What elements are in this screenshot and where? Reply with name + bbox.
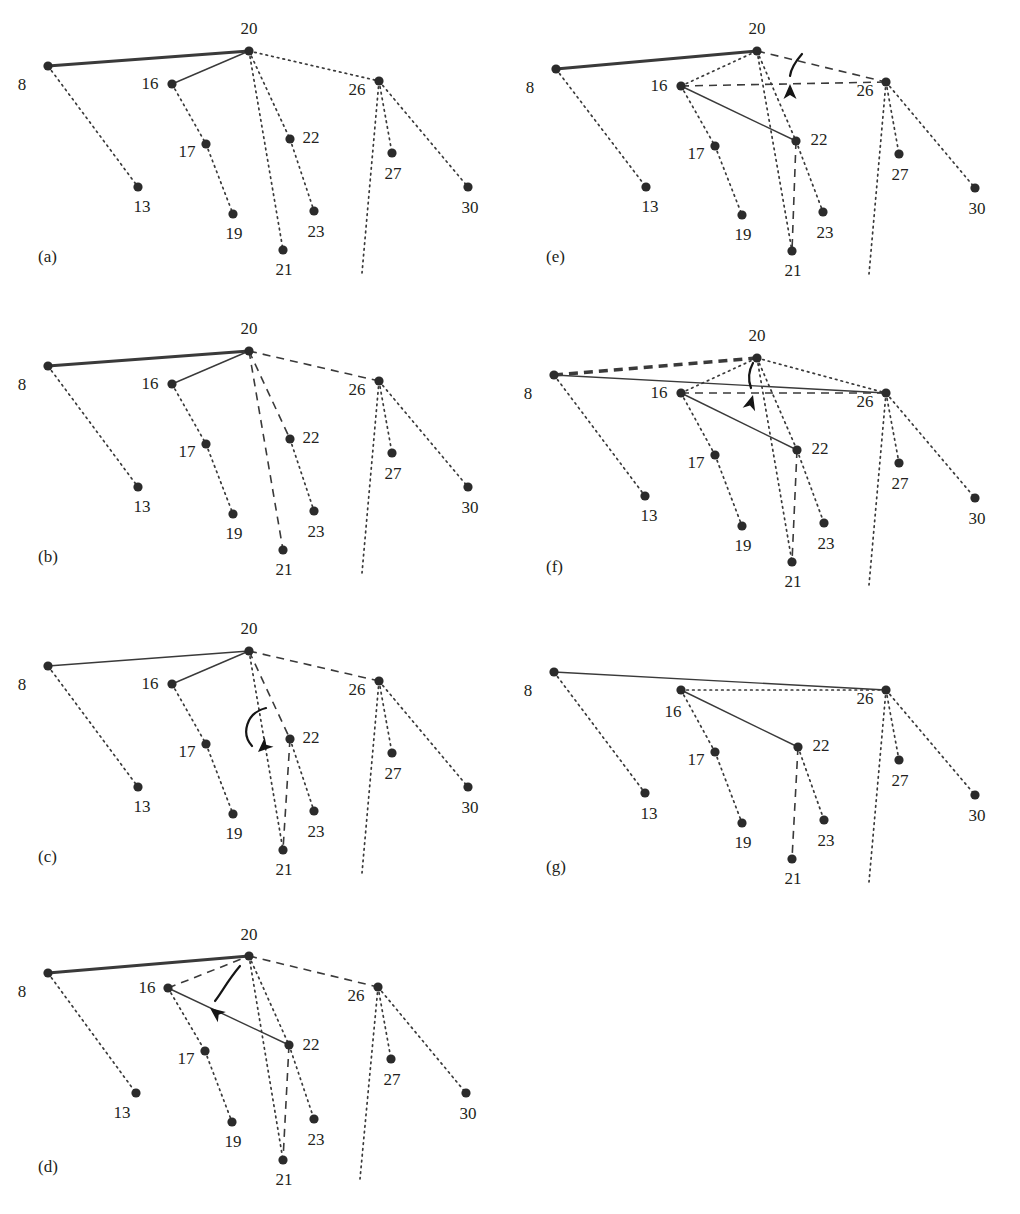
node-22[interactable] bbox=[792, 445, 801, 454]
node-17[interactable] bbox=[201, 139, 210, 148]
node-17[interactable] bbox=[201, 439, 210, 448]
node-8[interactable] bbox=[43, 661, 52, 670]
node-30[interactable] bbox=[970, 790, 979, 799]
node-19[interactable] bbox=[737, 210, 746, 219]
node-13[interactable] bbox=[640, 788, 649, 797]
node-21[interactable] bbox=[278, 245, 287, 254]
node-20[interactable] bbox=[244, 951, 253, 960]
node-16[interactable] bbox=[676, 685, 685, 694]
node-27[interactable] bbox=[387, 748, 396, 757]
node-30[interactable] bbox=[461, 1088, 470, 1097]
node-label-27: 27 bbox=[385, 464, 403, 483]
node-26[interactable] bbox=[374, 76, 383, 85]
node-22[interactable] bbox=[285, 734, 294, 743]
node-label-27: 27 bbox=[892, 474, 910, 493]
node-23[interactable] bbox=[309, 806, 318, 815]
node-27[interactable] bbox=[386, 1054, 395, 1063]
node-23[interactable] bbox=[309, 506, 318, 515]
node-16[interactable] bbox=[163, 983, 172, 992]
node-27[interactable] bbox=[387, 148, 396, 157]
node-26[interactable] bbox=[374, 676, 383, 685]
node-21[interactable] bbox=[787, 557, 796, 566]
node-22[interactable] bbox=[791, 136, 800, 145]
node-8[interactable] bbox=[549, 667, 558, 676]
node-21[interactable] bbox=[278, 1155, 287, 1164]
node-19[interactable] bbox=[228, 209, 237, 218]
node-27[interactable] bbox=[894, 458, 903, 467]
node-27[interactable] bbox=[894, 755, 903, 764]
node-23[interactable] bbox=[309, 206, 318, 215]
node-19[interactable] bbox=[228, 509, 237, 518]
node-13[interactable] bbox=[133, 182, 142, 191]
node-label-13: 13 bbox=[134, 197, 151, 216]
node-26[interactable] bbox=[373, 982, 382, 991]
node-label-26: 26 bbox=[857, 81, 874, 100]
edge-20-21 bbox=[249, 351, 283, 550]
node-16[interactable] bbox=[676, 388, 685, 397]
edge-17-19 bbox=[206, 744, 233, 814]
node-30[interactable] bbox=[970, 183, 979, 192]
node-30[interactable] bbox=[970, 493, 979, 502]
node-16[interactable] bbox=[676, 81, 685, 90]
node-23[interactable] bbox=[819, 815, 828, 824]
node-16[interactable] bbox=[167, 379, 176, 388]
node-21[interactable] bbox=[787, 854, 796, 863]
node-22[interactable] bbox=[284, 1040, 293, 1049]
node-23[interactable] bbox=[819, 518, 828, 527]
node-26[interactable] bbox=[881, 388, 890, 397]
node-30[interactable] bbox=[463, 782, 472, 791]
node-17[interactable] bbox=[710, 141, 719, 150]
node-27[interactable] bbox=[387, 448, 396, 457]
node-label-26: 26 bbox=[349, 80, 366, 99]
edge-8-20 bbox=[556, 51, 757, 69]
node-16[interactable] bbox=[167, 79, 176, 88]
node-26[interactable] bbox=[374, 376, 383, 385]
node-23[interactable] bbox=[818, 207, 827, 216]
node-21[interactable] bbox=[278, 545, 287, 554]
node-20[interactable] bbox=[244, 646, 253, 655]
node-22[interactable] bbox=[285, 434, 294, 443]
node-17[interactable] bbox=[201, 739, 210, 748]
node-20[interactable] bbox=[752, 46, 761, 55]
node-30[interactable] bbox=[463, 182, 472, 191]
node-8[interactable] bbox=[551, 64, 560, 73]
node-8[interactable] bbox=[43, 968, 52, 977]
edge-8-26 bbox=[554, 375, 886, 393]
node-20[interactable] bbox=[752, 353, 761, 362]
node-16[interactable] bbox=[167, 679, 176, 688]
node-17[interactable] bbox=[710, 747, 719, 756]
node-19[interactable] bbox=[737, 818, 746, 827]
node-label-19: 19 bbox=[225, 1132, 242, 1151]
node-21[interactable] bbox=[787, 246, 796, 255]
node-label-20: 20 bbox=[749, 19, 766, 38]
edge-group bbox=[554, 358, 975, 585]
node-19[interactable] bbox=[227, 1117, 236, 1126]
panel-caption-c: (c) bbox=[38, 847, 57, 866]
node-26[interactable] bbox=[881, 77, 890, 86]
node-21[interactable] bbox=[278, 845, 287, 854]
node-22[interactable] bbox=[793, 742, 802, 751]
node-8[interactable] bbox=[43, 61, 52, 70]
node-22[interactable] bbox=[285, 134, 294, 143]
node-27[interactable] bbox=[894, 149, 903, 158]
node-20[interactable] bbox=[244, 346, 253, 355]
node-26[interactable] bbox=[881, 685, 890, 694]
node-group: 81316171920212223262730 bbox=[18, 319, 479, 579]
node-13[interactable] bbox=[640, 491, 649, 500]
panel-caption-g: (g) bbox=[546, 857, 566, 876]
node-13[interactable] bbox=[131, 1088, 140, 1097]
edge-group bbox=[554, 672, 975, 882]
node-17[interactable] bbox=[200, 1046, 209, 1055]
node-23[interactable] bbox=[309, 1114, 318, 1123]
node-8[interactable] bbox=[549, 370, 558, 379]
node-30[interactable] bbox=[463, 482, 472, 491]
edge-group bbox=[48, 51, 468, 273]
node-13[interactable] bbox=[133, 482, 142, 491]
node-13[interactable] bbox=[641, 182, 650, 191]
node-19[interactable] bbox=[228, 809, 237, 818]
node-17[interactable] bbox=[710, 450, 719, 459]
node-8[interactable] bbox=[43, 361, 52, 370]
node-20[interactable] bbox=[244, 46, 253, 55]
node-19[interactable] bbox=[737, 521, 746, 530]
node-13[interactable] bbox=[133, 782, 142, 791]
